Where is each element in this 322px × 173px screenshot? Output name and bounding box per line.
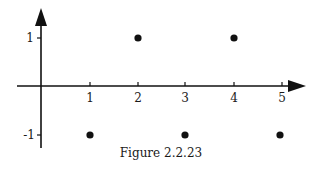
point-4	[230, 34, 237, 41]
point-5	[276, 131, 283, 138]
x-tick-label-5: 5	[278, 91, 286, 105]
x-tick-label-4: 4	[230, 91, 238, 105]
x-tick-label-1: 1	[86, 91, 94, 105]
point-3	[181, 131, 188, 138]
y-axis-arrow-icon	[35, 8, 47, 26]
x-tick-label-3: 3	[181, 91, 189, 105]
x-axis-arrow-icon	[288, 80, 306, 92]
y-tick-label-neg1: -1	[23, 128, 35, 142]
x-tick-label-2: 2	[134, 91, 142, 105]
point-1	[86, 131, 93, 138]
figure-caption: Figure 2.2.23	[0, 146, 322, 160]
y-tick-label-1: 1	[26, 31, 34, 45]
point-2	[134, 34, 141, 41]
